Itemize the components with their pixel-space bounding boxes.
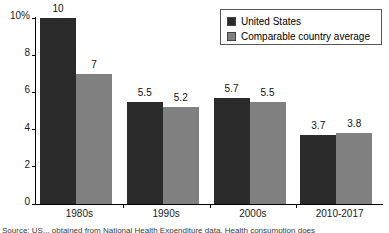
legend-item-united-states: United States: [227, 14, 376, 28]
bar-1980s-united-states: 10: [40, 18, 76, 204]
legend-item-comparable-country-average: Comparable country average: [227, 29, 376, 43]
y-tick-label: 4: [24, 123, 30, 133]
y-tick-label: 10%: [10, 11, 30, 21]
bar-chart: 10%86420 1075.55.25.75.53.73.8 1980s1990…: [0, 0, 389, 233]
bar-2010-2017-comparable-country-average: 3.8: [336, 133, 372, 204]
y-tick-label: 6: [24, 85, 30, 95]
x-tick-mark: [296, 204, 297, 208]
bar-value-label: 3.7: [311, 121, 325, 131]
bar-1990s-comparable-country-average: 5.2: [163, 107, 199, 204]
bar-1990s-united-states: 5.5: [127, 102, 163, 204]
chart-legend: United States Comparable country average: [220, 9, 382, 45]
plot-area: 1075.55.25.75.53.73.8: [36, 18, 383, 204]
bar-value-label: 7: [91, 60, 97, 70]
bar-value-label: 5.7: [225, 84, 239, 94]
bar-value-label: 3.8: [347, 119, 361, 129]
x-tick-mark: [210, 204, 211, 208]
legend-swatch-icon-united-states: [227, 17, 236, 26]
y-tick-label: 2: [24, 160, 30, 170]
y-tick-label: 0: [24, 197, 30, 207]
bar-2000s-united-states: 5.7: [214, 98, 250, 204]
bar-2010-2017-united-states: 3.7: [300, 135, 336, 204]
bar-1980s-comparable-country-average: 7: [76, 74, 112, 204]
bar-group-2010-2017: 3.73.8: [296, 18, 383, 204]
bar-value-label: 10: [52, 4, 63, 14]
y-tick-label: 8: [24, 48, 30, 58]
bar-value-label: 5.2: [174, 93, 188, 103]
x-axis-label-2010-2017: 2010-2017: [296, 208, 383, 219]
legend-label-united-states: United States: [241, 16, 301, 27]
bar-group-2000s: 5.75.5: [210, 18, 297, 204]
bar-value-label: 5.5: [138, 88, 152, 98]
x-axis-label-2000s: 2000s: [210, 208, 297, 219]
bar-group-1990s: 5.55.2: [123, 18, 210, 204]
chart-footnote: Source: US... obtained from National Hea…: [2, 226, 388, 233]
bar-value-label: 5.5: [261, 88, 275, 98]
x-axis-label-1990s: 1990s: [123, 208, 210, 219]
bar-2000s-comparable-country-average: 5.5: [250, 102, 286, 204]
legend-label-comparable-country-average: Comparable country average: [241, 31, 370, 42]
x-tick-mark: [123, 204, 124, 208]
legend-swatch-icon-comparable-country-average: [227, 32, 236, 41]
x-axis-label-1980s: 1980s: [36, 208, 123, 219]
bar-group-1980s: 107: [36, 18, 123, 204]
